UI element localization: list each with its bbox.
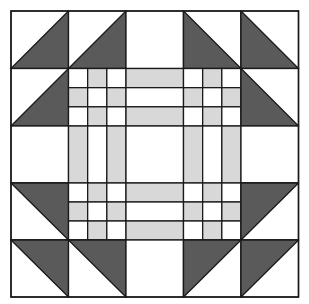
sashing-strip bbox=[184, 126, 203, 183]
nine-patch-square bbox=[184, 202, 203, 221]
white-square bbox=[126, 11, 184, 69]
nine-patch-square bbox=[203, 221, 222, 240]
nine-patch-square bbox=[69, 69, 88, 88]
quilt-block-diagram bbox=[0, 0, 309, 304]
nine-patch-square bbox=[88, 69, 107, 88]
nine-patch-square bbox=[184, 221, 203, 240]
nine-patch-square bbox=[69, 183, 88, 202]
sashing-strip bbox=[222, 126, 241, 183]
sashing-strip bbox=[126, 221, 184, 240]
nine-patch-square bbox=[222, 221, 241, 240]
sashing-strip bbox=[203, 126, 222, 183]
nine-patch-square bbox=[184, 183, 203, 202]
sashing-strip bbox=[126, 183, 184, 202]
nine-patch-square bbox=[184, 88, 203, 107]
nine-patch-square bbox=[88, 107, 107, 126]
nine-patch-square bbox=[222, 202, 241, 221]
nine-patch-square bbox=[69, 107, 88, 126]
nine-patch-square bbox=[69, 202, 88, 221]
nine-patch-square bbox=[222, 88, 241, 107]
nine-patch-square bbox=[203, 88, 222, 107]
nine-patch-square bbox=[88, 221, 107, 240]
nine-patch-square bbox=[203, 69, 222, 88]
sashing-strip bbox=[126, 202, 184, 221]
nine-patch-square bbox=[88, 183, 107, 202]
nine-patch-square bbox=[107, 69, 126, 88]
nine-patch-square bbox=[222, 107, 241, 126]
nine-patch-square bbox=[222, 183, 241, 202]
white-square bbox=[241, 126, 299, 183]
sashing-strip bbox=[88, 126, 107, 183]
nine-patch-square bbox=[107, 221, 126, 240]
nine-patch-square bbox=[107, 88, 126, 107]
nine-patch-square bbox=[203, 183, 222, 202]
white-square bbox=[126, 240, 184, 297]
nine-patch-square bbox=[222, 69, 241, 88]
sashing-strip bbox=[69, 126, 88, 183]
nine-patch-square bbox=[69, 88, 88, 107]
nine-patch-square bbox=[203, 202, 222, 221]
nine-patch-square bbox=[88, 202, 107, 221]
nine-patch-square bbox=[107, 107, 126, 126]
nine-patch-square bbox=[203, 107, 222, 126]
nine-patch-square bbox=[184, 107, 203, 126]
sashing-strip bbox=[126, 69, 184, 88]
nine-patch-square bbox=[69, 221, 88, 240]
nine-patch-square bbox=[88, 88, 107, 107]
sashing-strip bbox=[107, 126, 126, 183]
sashing-strip bbox=[126, 107, 184, 126]
nine-patch-square bbox=[107, 202, 126, 221]
nine-patch-square bbox=[107, 183, 126, 202]
white-square bbox=[11, 126, 69, 183]
white-square bbox=[126, 126, 184, 183]
nine-patch-square bbox=[184, 69, 203, 88]
sashing-strip bbox=[126, 88, 184, 107]
